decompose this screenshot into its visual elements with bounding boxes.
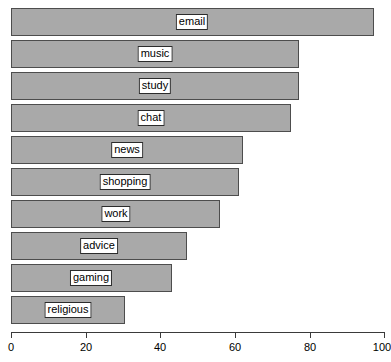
- x-axis-tick-label: 20: [80, 341, 92, 353]
- x-axis-tick-label: 80: [304, 341, 316, 353]
- bar-label-email: email: [176, 14, 208, 30]
- x-axis: 0 20 40 60 80 100: [0, 326, 391, 362]
- x-axis-tick: [310, 332, 311, 338]
- x-axis-tick: [11, 332, 12, 338]
- bar-label-work: work: [101, 206, 130, 222]
- bar-label-news: news: [111, 142, 143, 158]
- plot-area: email music study chat news shopping wor…: [0, 0, 391, 326]
- bar-label-religious: religious: [45, 302, 92, 318]
- bar-label-advice: advice: [80, 238, 118, 254]
- x-axis-tick-label: 40: [154, 341, 166, 353]
- x-axis-tick: [86, 332, 87, 338]
- x-axis-tick: [235, 332, 236, 338]
- x-axis-tick: [160, 332, 161, 338]
- bar-label-chat: chat: [138, 110, 165, 126]
- x-axis-line: [11, 332, 385, 333]
- bar-label-study: study: [139, 78, 171, 94]
- x-axis-tick-label: 0: [8, 341, 14, 353]
- horizontal-bar-chart: email music study chat news shopping wor…: [0, 0, 391, 362]
- bar-label-shopping: shopping: [100, 174, 151, 190]
- bar-label-gaming: gaming: [70, 270, 112, 286]
- x-axis-tick-label: 100: [373, 341, 391, 353]
- bar-label-music: music: [138, 46, 173, 62]
- x-axis-tick-label: 60: [229, 341, 241, 353]
- x-axis-tick: [384, 332, 385, 338]
